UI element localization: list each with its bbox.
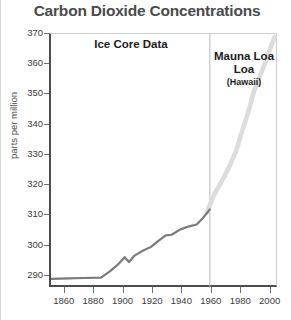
annotation-mauna-loa-line3: (Hawaii)	[213, 76, 275, 88]
y-tick-label: 350	[19, 88, 43, 98]
y-tick-label: 370	[19, 28, 43, 38]
annotation-mauna-loa: Mauna Loa Loa (Hawaii)	[213, 50, 275, 88]
y-axis-tick-labels: 290300310320330340350360370	[17, 0, 43, 320]
y-tick-label: 320	[19, 179, 43, 189]
annotation-mauna-loa-line1: Mauna Loa	[213, 50, 275, 63]
y-tick-label: 360	[19, 58, 43, 68]
y-tick-label: 310	[19, 209, 43, 219]
x-tick-label: 2000	[250, 295, 290, 306]
y-tick-label: 330	[19, 149, 43, 159]
y-tick-label: 290	[19, 270, 43, 280]
y-tick-label: 340	[19, 119, 43, 129]
y-tick-label: 300	[19, 240, 43, 250]
chart-title: Carbon Dioxide Concentrations	[1, 2, 292, 20]
chart-figure: Carbon Dioxide Concentrations parts per …	[0, 0, 292, 320]
series-line-ice-core	[51, 209, 210, 279]
annotation-ice-core-data: Ice Core Data	[61, 38, 201, 50]
annotation-mauna-loa-line2: Loa	[213, 63, 275, 76]
